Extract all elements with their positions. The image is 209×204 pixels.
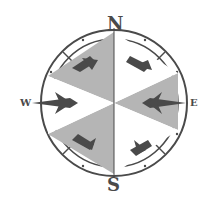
south-label: S (107, 176, 120, 194)
west-label: W (20, 98, 31, 108)
compass-rose-icon (0, 0, 209, 204)
north-label: N (107, 15, 123, 33)
east-label: E (190, 98, 198, 108)
